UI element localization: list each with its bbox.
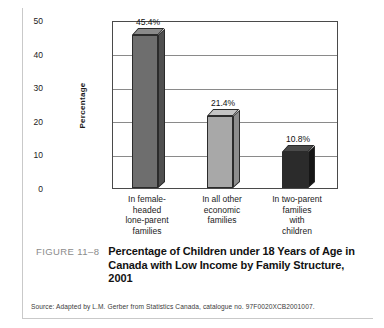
bar-side-face bbox=[233, 110, 240, 188]
figure-title: Percentage of Children under 18 Years of… bbox=[108, 245, 362, 286]
x-category-label-line: In female- bbox=[109, 194, 185, 205]
y-tick-label: 10 bbox=[21, 150, 43, 160]
x-category-label-line: economic bbox=[184, 205, 260, 216]
bar bbox=[282, 152, 308, 188]
x-category-label: In two-parentfamilieswithchildren bbox=[259, 194, 335, 236]
bar-front-face bbox=[282, 152, 308, 188]
x-category-label-line: families bbox=[184, 215, 260, 226]
bar-front-face bbox=[207, 116, 233, 188]
figure-caption: FIGURE 11–8 Percentage of Children under… bbox=[36, 245, 362, 286]
x-category-label-line: lone-parent bbox=[109, 215, 185, 226]
x-category-label-line: families bbox=[259, 205, 335, 216]
y-tick-label: 0 bbox=[21, 184, 43, 194]
bar-side-face bbox=[308, 146, 315, 188]
x-category-label-line: In two-parent bbox=[259, 194, 335, 205]
figure-number: FIGURE 11–8 bbox=[36, 245, 99, 286]
bar-chart: Percentage 01020304050 45.4%21.4%10.8% I… bbox=[0, 0, 384, 240]
x-category-label-line: In all other bbox=[184, 194, 260, 205]
source-note: Source: Adapted by L.M. Gerber from Stat… bbox=[31, 303, 361, 310]
x-category-label-line: families bbox=[109, 226, 185, 237]
bar bbox=[132, 35, 158, 188]
x-category-label: In all othereconomicfamilies bbox=[184, 194, 260, 226]
bar bbox=[207, 116, 233, 188]
y-tick-label: 20 bbox=[21, 117, 43, 127]
bar-value-label: 45.4% bbox=[118, 17, 178, 27]
y-tick-label: 30 bbox=[21, 83, 43, 93]
x-category-label-line: with bbox=[259, 215, 335, 226]
bar-value-label: 10.8% bbox=[268, 134, 328, 144]
y-tick-label: 50 bbox=[21, 16, 43, 26]
bar-front-face bbox=[132, 35, 158, 188]
bar-side-face bbox=[158, 29, 165, 188]
y-tick-label: 40 bbox=[21, 50, 43, 60]
x-category-label-line: children bbox=[259, 226, 335, 237]
y-axis-title: Percentage bbox=[74, 60, 90, 150]
bar-value-label: 21.4% bbox=[193, 98, 253, 108]
x-category-label-line: headed bbox=[109, 205, 185, 216]
x-category-label: In female-headedlone-parentfamilies bbox=[109, 194, 185, 236]
y-axis-title-text: Percentage bbox=[78, 82, 87, 128]
